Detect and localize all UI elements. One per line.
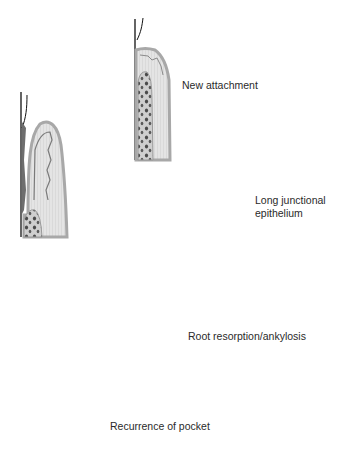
label-recurrence-of-pocket: Recurrence of pocket xyxy=(110,420,210,433)
label-root-resorption: Root resorption/ankylosis xyxy=(188,330,306,343)
pocket-epithelium xyxy=(22,122,26,214)
panel-initial-pocket xyxy=(21,92,67,237)
panel-new-attachment xyxy=(135,18,170,160)
alveolar-bone xyxy=(138,72,153,160)
gingival-margin-curve xyxy=(137,18,143,40)
label-long-junctional-epithelium: Long junctional epithelium xyxy=(255,194,326,220)
gingival-margin-curve xyxy=(22,95,27,128)
healing-outcomes-diagram xyxy=(0,0,339,474)
label-new-attachment: New attachment xyxy=(182,79,258,92)
